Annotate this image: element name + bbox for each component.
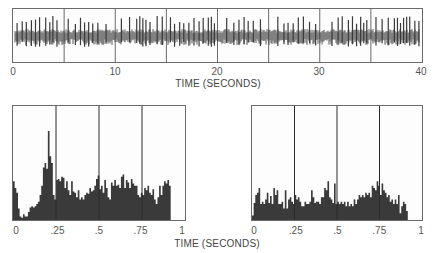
histogram-right-x-tick: .75: [372, 225, 386, 236]
histogram-left-panel: [12, 105, 186, 221]
histogram-right-x-tick: 1: [418, 225, 424, 236]
histogram-left-x-tick: .25: [51, 225, 65, 236]
histogram-left-x-tick: .5: [95, 225, 103, 236]
spike-trace-plot: [13, 9, 422, 62]
top-x-tick: 20: [211, 66, 222, 77]
histogram-left-plot: [13, 106, 185, 220]
histogram-left-x-tick: 0: [13, 225, 19, 236]
top-x-tick: 30: [313, 66, 324, 77]
histogram-right-x-tick: .5: [333, 225, 341, 236]
histogram-right-panel: [251, 105, 423, 221]
spike-trace-panel: [12, 8, 423, 63]
histogram-right-plot: [252, 106, 422, 220]
top-x-axis-title: TIME (SECONDS): [175, 78, 261, 89]
histogram-left-x-tick: 1: [179, 225, 185, 236]
histogram-right-x-tick: .25: [289, 225, 303, 236]
histogram-left-x-tick: .75: [134, 225, 148, 236]
histogram-right-x-tick: 0: [251, 225, 257, 236]
bottom-x-axis-title: TIME (SECONDS): [174, 238, 260, 249]
top-x-tick: 40: [415, 66, 426, 77]
top-x-tick: 10: [109, 66, 120, 77]
top-x-tick: 0: [10, 66, 16, 77]
